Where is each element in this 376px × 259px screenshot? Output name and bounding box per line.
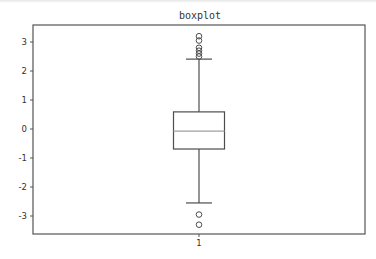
outlier-point [196, 222, 202, 228]
y-tick-label: -1 [19, 153, 27, 163]
x-tick-label: 1 [196, 238, 201, 248]
y-tick-label: 2 [22, 66, 27, 76]
y-tick-label: 0 [22, 124, 27, 134]
y-tick-label: 3 [22, 37, 27, 47]
y-axis: -3-2-10123 [19, 37, 33, 221]
outlier-point [196, 212, 202, 218]
y-tick-label: -2 [19, 182, 27, 192]
y-tick-label: 1 [22, 95, 27, 105]
boxplot-chart: boxplot -3-2-10123 1 [0, 0, 376, 259]
y-tick-label: -3 [19, 211, 27, 221]
chart-title: boxplot [179, 10, 221, 21]
box-1 [174, 33, 225, 227]
x-axis: 1 [196, 234, 201, 248]
